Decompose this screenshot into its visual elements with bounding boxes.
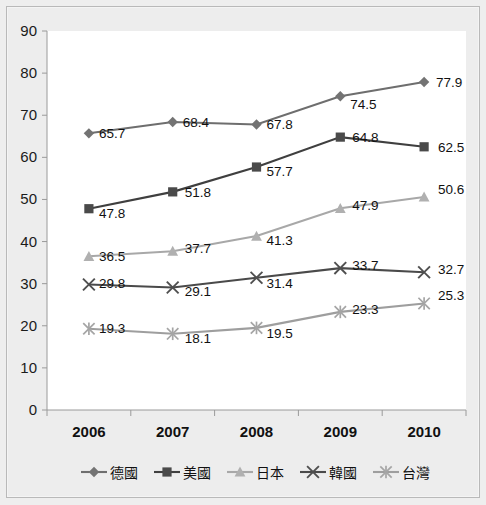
data-value-label: 36.5 (99, 249, 125, 264)
y-axis-tick-label: 10 (20, 359, 37, 376)
line-chart: 0102030405060708090200620072008200920106… (0, 0, 486, 505)
y-axis-tick-label: 80 (20, 64, 37, 81)
data-value-label: 29.8 (99, 276, 125, 291)
data-value-label: 23.3 (352, 302, 378, 317)
data-value-label: 37.7 (185, 241, 211, 256)
marker-square (84, 204, 93, 213)
legend-item-日本[interactable]: 日本 (227, 465, 284, 481)
x-axis-category-label: 2006 (72, 423, 105, 440)
data-value-label: 64.8 (352, 130, 378, 145)
data-value-label: 31.4 (267, 276, 294, 291)
data-value-label: 19.5 (267, 326, 293, 341)
marker-square (252, 162, 261, 171)
legend-label: 台灣 (402, 465, 430, 481)
marker-square (168, 187, 177, 196)
legend-item-台灣[interactable]: 台灣 (373, 465, 430, 481)
legend-label: 美國 (183, 465, 211, 481)
data-value-label: 25.3 (438, 288, 464, 303)
legend-item-德國[interactable]: 德國 (81, 465, 138, 481)
y-axis-tick-label: 30 (20, 275, 37, 292)
data-value-label: 74.5 (350, 97, 376, 112)
legend-label: 日本 (256, 465, 284, 481)
data-value-label: 47.8 (99, 206, 125, 221)
data-value-label: 29.1 (185, 284, 211, 299)
data-value-label: 57.7 (267, 164, 293, 179)
data-value-label: 41.3 (267, 233, 293, 248)
marker-square (336, 133, 345, 142)
legend-label: 韓國 (329, 465, 357, 481)
marker-diamond (89, 467, 99, 477)
y-axis-tick-label: 50 (20, 190, 37, 207)
y-axis-tick-label: 90 (20, 22, 37, 39)
data-value-label: 18.1 (185, 331, 211, 346)
chart-container: 0102030405060708090200620072008200920106… (0, 0, 486, 505)
data-value-label: 47.9 (352, 198, 378, 213)
y-axis-tick-label: 0 (29, 401, 37, 418)
data-value-label: 77.9 (436, 75, 462, 90)
y-axis-tick-label: 60 (20, 148, 37, 165)
data-value-label: 33.7 (352, 258, 378, 273)
data-value-label: 68.4 (183, 115, 210, 130)
x-axis-category-label: 2009 (324, 423, 357, 440)
y-axis-tick-label: 40 (20, 233, 37, 250)
data-value-label: 65.7 (99, 126, 125, 141)
legend-item-韓國[interactable]: 韓國 (300, 465, 357, 481)
data-value-label: 51.8 (185, 185, 211, 200)
data-value-label: 50.6 (438, 182, 464, 197)
y-axis-tick-label: 20 (20, 317, 37, 334)
x-axis-category-label: 2007 (156, 423, 189, 440)
y-axis-tick-label: 70 (20, 106, 37, 123)
data-value-label: 62.5 (438, 140, 464, 155)
marker-square (162, 467, 171, 476)
data-value-label: 67.8 (267, 117, 293, 132)
legend-item-美國[interactable]: 美國 (154, 465, 211, 481)
data-value-label: 19.3 (99, 321, 125, 336)
x-axis-category-label: 2010 (407, 423, 440, 440)
chart-legend: 德國美國日本韓國台灣 (81, 465, 430, 481)
x-axis-category-label: 2008 (240, 423, 273, 440)
legend-label: 德國 (110, 465, 138, 481)
data-value-label: 32.7 (438, 262, 464, 277)
marker-square (420, 142, 429, 151)
